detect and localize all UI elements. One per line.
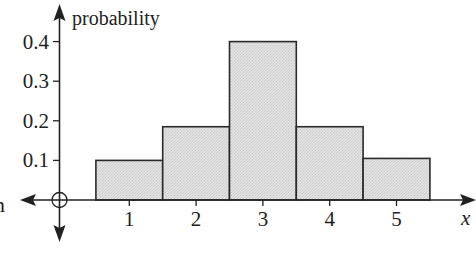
x-tick-label: 4	[324, 207, 335, 231]
y-tick-label: 0.1	[23, 148, 49, 172]
x-tick-label: 2	[191, 207, 202, 231]
bar-5	[363, 158, 430, 200]
bar-2	[163, 127, 230, 200]
x-axis-label: x	[460, 206, 471, 230]
clipped-label-fragment: n	[0, 192, 5, 217]
bar-1	[96, 160, 163, 200]
probability-distribution-chart: n 0.10.20.30.4 12345 probability x	[0, 0, 476, 253]
bar-4	[296, 127, 363, 200]
x-ticks-group: 12345	[124, 200, 402, 231]
x-tick-label: 5	[391, 207, 402, 231]
y-ticks-group: 0.10.20.30.4	[23, 30, 60, 173]
y-tick-label: 0.2	[23, 109, 49, 133]
bar-3	[230, 42, 297, 200]
y-axis-label: probability	[72, 7, 160, 30]
y-tick-label: 0.4	[23, 30, 50, 54]
y-tick-label: 0.3	[23, 69, 49, 93]
x-tick-label: 3	[258, 207, 269, 231]
x-tick-label: 1	[124, 207, 135, 231]
bars-group	[96, 42, 430, 200]
